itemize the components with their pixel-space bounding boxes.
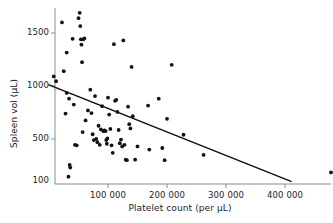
data-point (107, 113, 111, 117)
data-point (182, 133, 186, 137)
data-point (65, 91, 69, 95)
data-point (147, 148, 151, 152)
data-point (78, 11, 82, 15)
data-point (119, 138, 123, 142)
data-point (100, 104, 104, 108)
data-point (52, 75, 56, 79)
data-point (88, 88, 92, 92)
y-tick-label: 100 (8, 175, 49, 185)
data-point (117, 128, 121, 132)
data-points (52, 11, 333, 179)
y-tick-label: 500 (8, 133, 49, 143)
scatter-plot-figure: Spleen vol (µL) Platelet count (per µL) … (0, 0, 333, 223)
data-point (75, 143, 79, 147)
data-point (163, 158, 167, 162)
data-point (97, 124, 101, 128)
data-point (165, 117, 169, 121)
data-point (129, 126, 133, 130)
axes (51, 8, 331, 188)
data-point (136, 145, 140, 149)
data-point (123, 143, 127, 147)
data-point (64, 112, 68, 116)
data-point (108, 127, 112, 131)
data-point (72, 103, 76, 107)
regression-line (49, 85, 291, 181)
data-point (91, 132, 95, 136)
data-point (125, 158, 129, 162)
x-tick-label: 200 000 (137, 190, 197, 200)
data-point (93, 94, 97, 98)
x-tick-label: 300 000 (196, 190, 256, 200)
data-point (81, 130, 85, 134)
data-point (80, 43, 84, 47)
data-point (110, 143, 114, 147)
data-point (65, 51, 69, 55)
data-point (202, 153, 206, 157)
data-point (83, 36, 87, 40)
x-axis-title: Platelet count (per µL) (60, 203, 300, 213)
x-tick-label: 400 000 (255, 190, 315, 200)
data-point (329, 170, 333, 174)
data-point (170, 63, 174, 67)
data-point (133, 158, 137, 162)
data-point (71, 37, 75, 41)
data-point (67, 97, 71, 101)
data-point (90, 111, 94, 115)
data-point (105, 142, 109, 146)
data-point (121, 39, 125, 43)
data-point (86, 108, 90, 112)
data-point (130, 65, 134, 69)
regression-line-segment (49, 85, 291, 181)
data-point (116, 110, 120, 114)
data-point (68, 166, 72, 170)
data-point (98, 143, 102, 147)
data-point (67, 175, 71, 179)
data-point (106, 96, 110, 100)
data-point (126, 105, 130, 109)
x-tick-label: 100 000 (78, 190, 138, 200)
data-point (131, 114, 135, 118)
data-point (84, 119, 88, 123)
data-point (78, 24, 82, 28)
data-point (106, 137, 110, 141)
data-point (111, 151, 115, 155)
data-point (127, 122, 131, 126)
data-point (77, 16, 81, 20)
data-point (62, 69, 66, 73)
data-point (80, 60, 84, 64)
y-tick-label: 1500 (8, 27, 49, 37)
data-point (146, 104, 150, 108)
data-point (114, 98, 118, 102)
data-point (118, 141, 122, 145)
data-point (104, 129, 108, 133)
data-point (112, 42, 116, 46)
data-point (160, 146, 164, 150)
data-point (157, 97, 161, 101)
data-point (60, 21, 64, 25)
y-tick-label: 1000 (8, 80, 49, 90)
data-point (54, 79, 58, 83)
